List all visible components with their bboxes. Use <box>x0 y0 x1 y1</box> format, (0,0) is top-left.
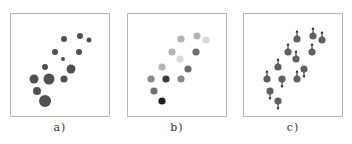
point-a-7 <box>42 64 48 70</box>
arrow-up-icon <box>276 58 279 61</box>
caption-a: a) <box>10 121 110 134</box>
point-b-1 <box>177 35 184 42</box>
point-a-12 <box>33 87 41 95</box>
point-a-9 <box>30 75 39 84</box>
scatter-plot-c <box>244 14 342 116</box>
point-c-4 <box>284 43 291 56</box>
scatter-plot-a <box>11 14 109 116</box>
point-c-7 <box>274 58 281 71</box>
arrow-up-icon <box>286 43 289 46</box>
point-b-8 <box>184 65 191 72</box>
point-b-2 <box>193 32 200 39</box>
caption-b: b) <box>127 121 227 134</box>
point-c-12 <box>266 87 273 100</box>
point-a-13 <box>39 95 51 107</box>
point-b-4 <box>168 48 175 55</box>
point-c-1 <box>293 30 300 43</box>
point-c-6 <box>292 50 299 63</box>
point-a-2 <box>77 33 83 39</box>
point-c-11 <box>293 70 300 83</box>
point-b-12 <box>150 87 157 94</box>
point-c-3 <box>318 31 325 44</box>
arrow-down-icon <box>302 76 305 79</box>
arrow-down-icon <box>276 108 279 111</box>
point-c-13 <box>274 97 281 110</box>
caption-c: c) <box>243 121 343 134</box>
point-b-5 <box>192 48 199 55</box>
point-b-7 <box>158 63 165 70</box>
arrow-up-icon <box>320 31 323 34</box>
arrow-down-icon <box>280 86 283 89</box>
panel-a-size-encoding <box>10 13 110 117</box>
point-b-13 <box>158 97 165 104</box>
point-b-9 <box>147 75 154 82</box>
panel-b-gray-encoding <box>127 13 227 117</box>
arrow-up-icon <box>295 30 298 33</box>
point-a-11 <box>61 76 68 83</box>
point-b-6 <box>176 55 183 62</box>
point-a-6 <box>61 57 65 61</box>
point-b-11 <box>177 75 184 82</box>
point-c-9 <box>263 70 270 83</box>
point-a-1 <box>61 36 67 42</box>
arrow-up-icon <box>310 43 313 46</box>
point-a-3 <box>87 38 92 43</box>
point-b-3 <box>202 36 209 43</box>
point-b-10 <box>162 75 169 82</box>
panel-c-arrow-encoding <box>243 13 343 117</box>
point-c-2 <box>309 27 316 40</box>
scatter-plot-b <box>128 14 226 116</box>
point-c-5 <box>308 43 315 56</box>
point-a-4 <box>52 49 58 55</box>
arrow-up-icon <box>311 27 314 30</box>
arrow-down-icon <box>268 98 271 101</box>
arrow-up-icon <box>294 50 297 53</box>
arrow-up-icon <box>295 70 298 73</box>
point-c-10 <box>278 75 285 88</box>
point-a-8 <box>67 65 76 74</box>
point-c-8 <box>300 65 307 78</box>
arrow-up-icon <box>265 70 268 73</box>
point-a-5 <box>76 49 82 55</box>
point-a-10 <box>44 74 55 85</box>
